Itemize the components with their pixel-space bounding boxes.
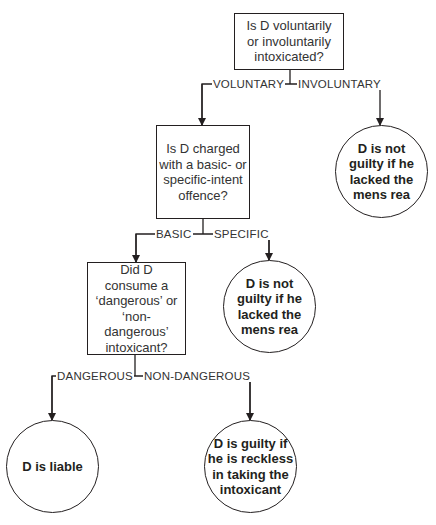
decision-text: Did D consume a ‘dangerous’ or ‘non-dang…	[90, 262, 183, 355]
outcome-circle-involuntary: D is not guilty if he lacked the mens re…	[335, 125, 428, 218]
edge-label-dangerous: DANGEROUS	[56, 370, 134, 382]
edge-label-voluntary: VOLUNTARY	[212, 78, 285, 90]
outcome-text: D is liable	[22, 459, 83, 475]
decision-text: Is D voluntarily or involuntarily intoxi…	[246, 18, 331, 65]
edge-label-non-dangerous: NON-DANGEROUS	[143, 370, 251, 382]
outcome-text: D is not guilty if he lacked the mens re…	[237, 276, 302, 338]
outcome-circle-dangerous: D is liable	[6, 420, 99, 513]
decision-box-intoxication-type: Is D voluntarily or involuntarily intoxi…	[234, 13, 344, 70]
edge-label-specific: SPECIFIC	[213, 228, 270, 240]
decision-text: Is D charged with a basic- or specific-i…	[159, 141, 246, 203]
outcome-circle-specific: D is not guilty if he lacked the mens re…	[223, 260, 316, 353]
edge-label-involuntary: INVOLUNTARY	[297, 78, 382, 90]
outcome-text: D is guilty if he is reckless in taking …	[208, 436, 293, 498]
edge-label-basic: BASIC	[155, 228, 193, 240]
decision-box-offence-type: Is D charged with a basic- or specific-i…	[156, 125, 250, 219]
outcome-circle-non-dangerous: D is guilty if he is reckless in taking …	[204, 420, 297, 513]
decision-box-intoxicant-type: Did D consume a ‘dangerous’ or ‘non-dang…	[87, 262, 186, 355]
outcome-text: D is not guilty if he lacked the mens re…	[349, 141, 414, 203]
